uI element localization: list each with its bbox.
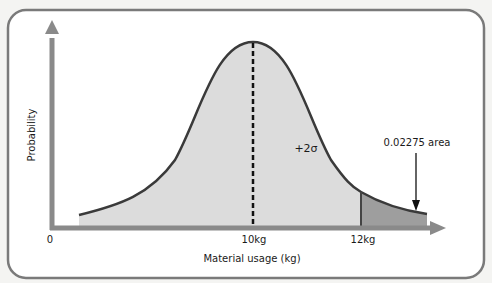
tail-area-label: 0.02275 area [384,137,451,148]
x-axis-label: Material usage (kg) [203,253,300,264]
x-tick-threshold: 12kg [351,234,376,245]
x-tick-mean: 10kg [242,234,267,245]
normal-distribution-chart: Probability 0 10kg 12kg Material usage (… [0,0,492,283]
x-tick-origin: 0 [47,234,53,245]
chart-figure: Probability 0 10kg 12kg Material usage (… [0,0,492,283]
y-axis-label: Probability [26,108,37,161]
sigma-label: +2σ [294,142,317,155]
